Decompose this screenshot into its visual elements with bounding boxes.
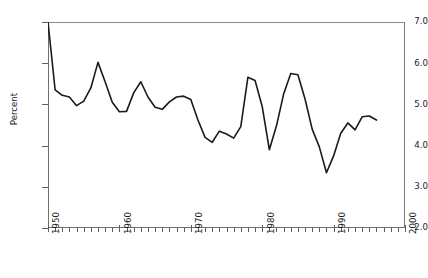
x-minor-tick [369,228,370,232]
x-minor-tick [241,228,242,232]
x-minor-tick [91,228,92,232]
clipped-glyph-artifact [42,0,52,9]
x-minor-tick [384,228,385,232]
y-tick-label: 4.0 [402,141,428,150]
x-minor-tick [248,228,249,232]
x-major-tick [191,225,192,232]
y-tick-label: 7.0 [402,17,428,26]
x-minor-tick [69,228,70,232]
x-minor-tick [77,228,78,232]
y-tick-label: 6.0 [402,59,428,68]
x-tick-label: 1960 [124,212,133,234]
x-minor-tick [177,228,178,232]
x-minor-tick [284,228,285,232]
x-tick-label: 1950 [52,212,61,234]
y-axis-title: Percent [9,79,19,139]
chart-figure: 7.06.05.04.03.02.0 Percent 1950196019701… [0,0,428,278]
x-minor-tick [291,228,292,232]
x-minor-tick [319,228,320,232]
x-minor-tick [398,228,399,232]
data-series-line [48,22,405,228]
x-major-tick [334,225,335,232]
x-minor-tick [376,228,377,232]
x-minor-tick [98,228,99,232]
x-minor-tick [162,228,163,232]
x-tick-label: 2000 [409,212,418,234]
x-major-tick [405,225,406,232]
x-tick-label: 1970 [195,212,204,234]
x-minor-tick [255,228,256,232]
x-minor-tick [355,228,356,232]
x-minor-tick [219,228,220,232]
x-minor-tick [212,228,213,232]
x-minor-tick [305,228,306,232]
y-tick-label: 5.0 [402,100,428,109]
y-tick-label: 3.0 [402,182,428,191]
x-minor-tick [391,228,392,232]
x-tick-label: 1980 [267,212,276,234]
x-minor-tick [276,228,277,232]
x-minor-tick [148,228,149,232]
x-tick-label: 1990 [338,212,347,234]
x-major-tick [262,225,263,232]
x-minor-tick [326,228,327,232]
x-minor-tick [155,228,156,232]
x-minor-tick [312,228,313,232]
x-minor-tick [298,228,299,232]
x-minor-tick [112,228,113,232]
x-minor-tick [84,228,85,232]
x-minor-tick [348,228,349,232]
x-minor-tick [169,228,170,232]
x-minor-tick [105,228,106,232]
x-major-tick [119,225,120,232]
x-minor-tick [227,228,228,232]
x-minor-tick [134,228,135,232]
x-minor-tick [184,228,185,232]
x-minor-tick [234,228,235,232]
x-minor-tick [141,228,142,232]
x-minor-tick [205,228,206,232]
x-minor-tick [362,228,363,232]
x-minor-tick [62,228,63,232]
x-major-tick [48,225,49,232]
